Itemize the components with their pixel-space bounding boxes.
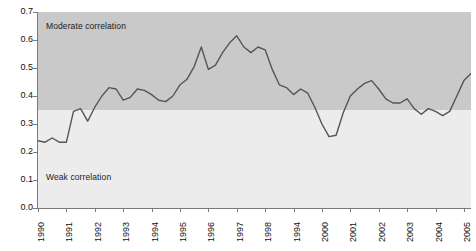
y-tick-label: 0.6 xyxy=(0,34,33,44)
x-tick-label: 2001 xyxy=(343,213,357,237)
x-tick-label: 1990 xyxy=(31,213,45,237)
y-tick-label: 0.1 xyxy=(0,174,33,184)
y-tick-label: 0.2 xyxy=(0,146,33,156)
x-tick-mark xyxy=(294,208,295,212)
x-tick-label: 1994 xyxy=(287,213,301,237)
x-tick-mark xyxy=(436,208,437,212)
x-tick-label: 2003 xyxy=(400,213,414,237)
y-axis-line xyxy=(37,12,38,209)
x-tick-mark xyxy=(180,208,181,212)
x-tick-mark xyxy=(123,208,124,212)
x-tick-label: 2004 xyxy=(429,213,443,237)
x-tick-label: 1995 xyxy=(173,213,187,237)
x-tick-mark xyxy=(95,208,96,212)
x-axis-line xyxy=(37,208,471,209)
x-tick-mark xyxy=(350,208,351,212)
x-tick-label: 2002 xyxy=(372,213,386,237)
x-tick-label: 2000 xyxy=(315,213,329,237)
x-tick-mark xyxy=(265,208,266,212)
x-tick-label: 1991 xyxy=(59,213,73,237)
series-correlation-line xyxy=(38,36,471,142)
x-tick-mark xyxy=(66,208,67,212)
plot-area: Moderate correlation Weak correlation xyxy=(38,12,471,208)
x-tick-mark xyxy=(464,208,465,212)
x-tick-mark xyxy=(407,208,408,212)
x-tick-label: 2005 xyxy=(457,213,471,237)
y-tick-label: 0.0 xyxy=(0,202,33,212)
x-tick-mark xyxy=(38,208,39,212)
y-tick-label: 0.7 xyxy=(0,6,33,16)
x-tick-label: 1998 xyxy=(258,213,272,237)
x-tick-mark xyxy=(208,208,209,212)
series-correlation xyxy=(38,12,471,208)
y-tick-label: 0.5 xyxy=(0,62,33,72)
x-tick-label: 1996 xyxy=(201,213,215,237)
x-tick-mark xyxy=(152,208,153,212)
correlation-line-chart: 0.00.10.20.30.40.50.60.7 Moderate correl… xyxy=(0,0,476,251)
x-tick-mark xyxy=(322,208,323,212)
x-tick-label: 1992 xyxy=(88,213,102,237)
x-tick-label: 1997 xyxy=(230,213,244,237)
x-tick-mark xyxy=(237,208,238,212)
x-tick-mark xyxy=(379,208,380,212)
x-tick-label: 1993 xyxy=(116,213,130,237)
x-tick-label: 1994 xyxy=(145,213,159,237)
y-tick-label: 0.3 xyxy=(0,118,33,128)
y-tick-label: 0.4 xyxy=(0,90,33,100)
